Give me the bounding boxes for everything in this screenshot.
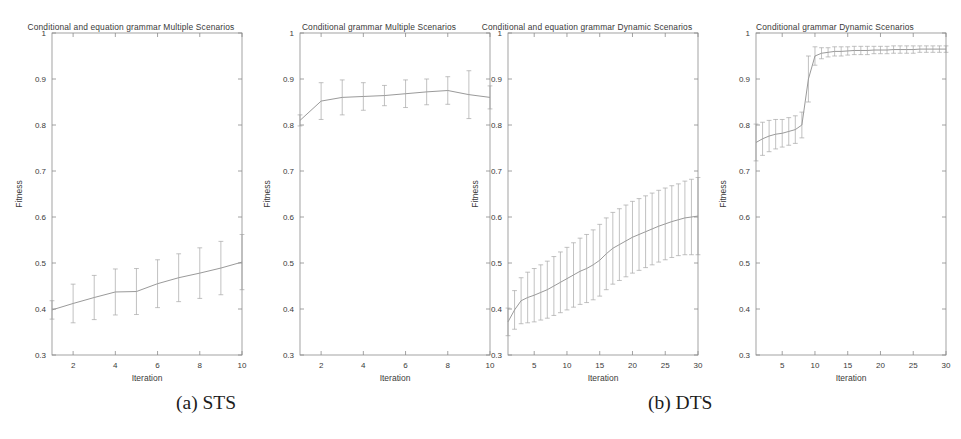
- y-tick-label: 0.7: [739, 167, 751, 176]
- y-tick-label: 1: [498, 29, 503, 38]
- y-tick-label: 0.8: [491, 121, 503, 130]
- plot-area: 0.30.40.50.60.70.80.91246810IterationFit…: [0, 0, 262, 395]
- error-bars: [50, 234, 245, 322]
- plot-area: 0.30.40.50.60.70.80.9151015202530Iterati…: [456, 0, 718, 395]
- y-tick-label: 0.9: [491, 75, 503, 84]
- y-tick-label: 0.5: [35, 259, 47, 268]
- y-tick-label: 1: [290, 29, 295, 38]
- y-tick-label: 1: [42, 29, 47, 38]
- y-axis-label: Fitness: [262, 180, 272, 207]
- x-tick-label: 10: [811, 361, 820, 370]
- y-tick-label: 0.3: [283, 351, 295, 360]
- mean-series-line: [756, 49, 946, 142]
- y-axis-label: Fitness: [14, 180, 24, 207]
- y-axis-label: Fitness: [470, 180, 480, 207]
- x-axis-label: Iteration: [588, 373, 619, 383]
- x-axis-label: Iteration: [836, 373, 867, 383]
- y-tick-label: 0.5: [739, 259, 751, 268]
- x-tick-label: 10: [563, 361, 572, 370]
- mean-series-line: [508, 216, 698, 322]
- x-tick-label: 2: [319, 361, 324, 370]
- subfigure-caption-b: (b) DTS: [648, 392, 712, 414]
- axes-box: [52, 33, 242, 355]
- x-tick-label: 4: [113, 361, 118, 370]
- y-tick-label: 0.4: [35, 305, 47, 314]
- y-tick-label: 0.5: [283, 259, 295, 268]
- y-tick-label: 0.6: [739, 213, 751, 222]
- x-axis-label: Iteration: [132, 373, 163, 383]
- y-tick-label: 0.3: [35, 351, 47, 360]
- x-tick-label: 8: [198, 361, 203, 370]
- plot-area: 0.30.40.50.60.70.80.9151015202530Iterati…: [704, 0, 961, 395]
- y-tick-label: 0.7: [491, 167, 503, 176]
- x-tick-label: 25: [909, 361, 918, 370]
- chart-panel-cond-eq-dynamic: Conditional and equation grammar Dynamic…: [456, 0, 718, 395]
- x-tick-label: 5: [780, 361, 785, 370]
- y-tick-label: 0.8: [35, 121, 47, 130]
- mean-series-line: [52, 262, 242, 310]
- x-tick-label: 10: [238, 361, 247, 370]
- y-tick-label: 0.9: [739, 75, 751, 84]
- y-tick-label: 0.4: [283, 305, 295, 314]
- y-tick-label: 0.5: [491, 259, 503, 268]
- y-tick-label: 0.9: [283, 75, 295, 84]
- y-tick-label: 0.4: [739, 305, 751, 314]
- y-axis-label: Fitness: [718, 180, 728, 207]
- chart-panel-cond-eq-multiple: Conditional and equation grammar Multipl…: [0, 0, 262, 395]
- axes-box: [756, 33, 946, 355]
- y-tick-label: 1: [746, 29, 751, 38]
- chart-panel-cond-dynamic: Conditional grammar Dynamic Scenarios 0.…: [704, 0, 961, 395]
- x-tick-label: 30: [942, 361, 951, 370]
- x-tick-label: 6: [155, 361, 160, 370]
- x-tick-label: 20: [628, 361, 637, 370]
- axes-box: [508, 33, 698, 355]
- error-bars: [754, 46, 949, 161]
- y-tick-label: 0.6: [283, 213, 295, 222]
- x-tick-label: 5: [532, 361, 537, 370]
- y-tick-label: 0.8: [739, 121, 751, 130]
- x-tick-label: 30: [694, 361, 703, 370]
- figure-container: Conditional and equation grammar Multipl…: [0, 0, 961, 439]
- x-tick-label: 4: [361, 361, 366, 370]
- x-tick-label: 2: [71, 361, 76, 370]
- y-tick-label: 0.8: [283, 121, 295, 130]
- subfigure-caption-a: (a) STS: [176, 392, 236, 414]
- x-axis-label: Iteration: [380, 373, 411, 383]
- y-tick-label: 0.4: [491, 305, 503, 314]
- y-tick-label: 0.9: [35, 75, 47, 84]
- x-tick-label: 15: [843, 361, 852, 370]
- x-tick-label: 6: [403, 361, 408, 370]
- x-tick-label: 25: [661, 361, 670, 370]
- y-tick-label: 0.6: [491, 213, 503, 222]
- x-tick-label: 8: [446, 361, 451, 370]
- y-tick-label: 0.7: [35, 167, 47, 176]
- x-tick-label: 20: [876, 361, 885, 370]
- y-tick-label: 0.3: [491, 351, 503, 360]
- y-tick-label: 0.3: [739, 351, 751, 360]
- y-tick-label: 0.6: [35, 213, 47, 222]
- y-tick-label: 0.7: [283, 167, 295, 176]
- x-tick-label: 15: [595, 361, 604, 370]
